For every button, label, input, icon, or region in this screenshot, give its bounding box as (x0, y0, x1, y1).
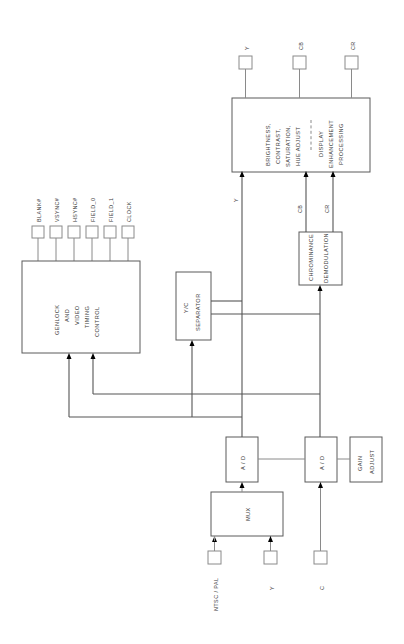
wire-feedback-genlock-b (91, 353, 321, 394)
wire-adc-luma-out (240, 171, 245, 437)
block-chrominance-demodulation[interactable]: CHROMINANCE DEMODULATION (299, 232, 342, 285)
block-adc-luma[interactable]: A / D (226, 437, 258, 482)
pin-field-0[interactable]: FIELD_0 (86, 198, 98, 261)
arrow-c-to-adc (318, 482, 323, 488)
block-adc-chroma[interactable]: A / D (305, 437, 337, 482)
arrow-y-to-mux (268, 536, 273, 542)
pin-label-clock: CLOCK (126, 201, 132, 222)
pin-label-vsync: VSYNC# (54, 198, 60, 222)
pin-in-c[interactable]: C (314, 482, 327, 590)
pin-label-out-cr: CR (350, 41, 356, 50)
genlock-label-line4: TIMING (84, 306, 90, 328)
genlock-label-line3: VIDEO (74, 305, 80, 325)
signal-label-cr-to-display: CR (324, 204, 330, 213)
wire-feedback-genlock-a (67, 353, 193, 417)
signal-label-y-to-display: Y (233, 198, 239, 202)
diagram-canvas: BLANK# VSYNC# HSYNC# FIELD_0 (0, 0, 404, 644)
display-proc-line6: ENHANCEMENT (328, 120, 334, 168)
block-gain-adjust[interactable]: GAIN ADJUST (350, 437, 382, 482)
pin-label-in-ntsc-pal: NTSC / PAL (213, 578, 219, 611)
pin-label-in-y: Y (269, 586, 275, 590)
pin-out-y[interactable]: Y (239, 46, 252, 98)
pin-label-field-1: FIELD_1 (108, 198, 114, 222)
genlock-label-line2: AND (64, 309, 70, 322)
wire-adc-chroma-out (318, 285, 323, 437)
gain-adjust-line2: ADJUST (369, 449, 375, 474)
pin-clock[interactable]: CLOCK (122, 201, 134, 261)
wire-mux-to-adc (240, 482, 245, 492)
yc-separator-label-line1: Y/C (183, 302, 189, 313)
pin-blank[interactable]: BLANK# (32, 199, 44, 261)
pin-vsync[interactable]: VSYNC# (50, 198, 62, 261)
pin-label-field-0: FIELD_0 (90, 198, 96, 222)
genlock-label-line1: GENLOCK (54, 304, 60, 335)
pin-label-blank: BLANK# (36, 199, 42, 222)
adc-luma-label: A / D (240, 456, 246, 470)
wire-cb-to-display (304, 171, 309, 232)
signal-label-cb-to-display: CB (297, 205, 303, 213)
adc-chroma-label: A / D (319, 456, 325, 470)
chroma-demod-label-line2: DEMODULATION (323, 233, 329, 283)
block-genlock-video-timing-control[interactable]: GENLOCK AND VIDEO TIMING CONTROL (22, 261, 140, 353)
display-proc-line5: DISPLAY (318, 131, 324, 157)
display-proc-line7: PROCESSING (338, 123, 344, 165)
timing-output-pins: BLANK# VSYNC# HSYNC# FIELD_0 (32, 197, 134, 261)
pin-field-1[interactable]: FIELD_1 (104, 198, 116, 261)
display-proc-line3: SATURATION, (285, 125, 291, 167)
pin-label-out-cb: CB (298, 42, 304, 50)
mux-label: MUX (245, 507, 251, 521)
chroma-demod-label-line1: CHROMINANCE (308, 234, 314, 281)
video-output-pins: Y CB CR (239, 41, 358, 98)
block-yc-separator[interactable]: Y/C SEPARATOR (176, 272, 211, 340)
wire-to-yc-separator (190, 340, 195, 417)
pin-label-hsync: HSYNC# (72, 197, 78, 222)
yc-separator-label-line2: SEPARATOR (195, 293, 201, 331)
display-proc-line1: BRIGHTNESS, (265, 123, 271, 166)
gain-adjust-line1: GAIN (357, 456, 363, 471)
pin-out-cb[interactable]: CB (293, 42, 306, 98)
display-proc-line2: CONTRAST, (275, 128, 281, 164)
pin-out-cr[interactable]: CR (345, 41, 358, 98)
genlock-label-line5: CONTROL (94, 307, 100, 338)
wire-cr-to-display (331, 171, 336, 232)
pin-in-ntsc-pal[interactable]: NTSC / PAL (208, 536, 221, 611)
pin-label-out-y: Y (244, 46, 250, 50)
pin-label-in-c: C (319, 586, 325, 590)
display-proc-line4: HUE ADJUST (295, 127, 301, 166)
pin-in-y[interactable]: Y (264, 536, 277, 590)
pin-hsync[interactable]: HSYNC# (68, 197, 80, 261)
block-diagram: BLANK# VSYNC# HSYNC# FIELD_0 (0, 0, 404, 644)
block-display-processing[interactable]: BRIGHTNESS, CONTRAST, SATURATION, HUE AD… (232, 98, 370, 172)
block-mux[interactable]: MUX (211, 492, 283, 536)
